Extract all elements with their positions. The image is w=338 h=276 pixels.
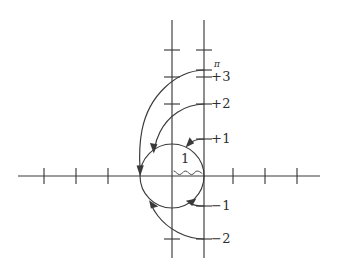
pi-label: π — [214, 60, 220, 69]
plus-one-arc-arrowhead — [186, 137, 195, 147]
horizontal-axis-group — [18, 168, 320, 184]
label-plus-three: +3 — [211, 70, 231, 83]
label-minus-one: −1 — [211, 199, 231, 212]
winding-map-figure: π +3 +2 +1 −1 −2 1 — [0, 0, 338, 276]
diagram-canvas — [0, 0, 338, 276]
plus-two-arc — [155, 104, 204, 148]
label-plus-two: +2 — [211, 97, 231, 110]
label-minus-two: −2 — [211, 232, 231, 245]
radius-label: 1 — [181, 152, 189, 165]
radius-brace-group — [174, 171, 202, 175]
label-plus-one: +1 — [211, 132, 231, 145]
mapping-arcs-group — [137, 70, 204, 239]
pi-arc-arrowhead — [137, 165, 144, 176]
minus-two-arc — [152, 206, 205, 240]
radius-underbrace — [174, 171, 202, 175]
left-vertical-line-group — [164, 20, 180, 258]
